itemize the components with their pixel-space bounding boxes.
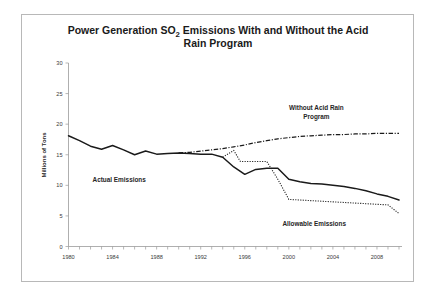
title-pre: Power Generation SO bbox=[68, 24, 176, 36]
x-tick-label: 2000 bbox=[283, 254, 295, 260]
x-axis-ticks: 19801984198819921996200020042008 bbox=[62, 247, 399, 260]
series-line-allowable-emissions bbox=[223, 150, 399, 213]
annotation-actual-emissions: Actual Emissions bbox=[93, 176, 147, 183]
title-line-2: Rain Program bbox=[184, 37, 253, 49]
title-post: Emissions With and Without the Acid bbox=[180, 24, 368, 36]
chart-axes bbox=[69, 63, 403, 247]
y-tick-label: 10 bbox=[56, 182, 62, 188]
chart-series-lines bbox=[69, 133, 400, 213]
series-line-actual-emissions bbox=[69, 136, 400, 200]
y-tick-label: 5 bbox=[59, 213, 62, 219]
annotation-allowable-emissions: Allowable Emissions bbox=[282, 220, 346, 227]
x-tick-label: 1984 bbox=[106, 254, 118, 260]
so2-emissions-line-chart: Power Generation SO2 Emissions With and … bbox=[0, 0, 434, 298]
x-tick-label: 1996 bbox=[239, 254, 251, 260]
annotation-without-acid-rain-line1: Without Acid Rain bbox=[289, 104, 344, 111]
y-tick-label: 20 bbox=[56, 121, 62, 127]
chart-title: Power Generation SO2 Emissions With and … bbox=[68, 24, 369, 49]
y-axis-label: Millions of Tons bbox=[41, 132, 47, 178]
annotation-without-acid-rain-line2: Program bbox=[303, 113, 330, 121]
y-axis-label-text: Millions of Tons bbox=[41, 132, 47, 178]
chart-annotations: Actual Emissions Without Acid Rain Progr… bbox=[93, 104, 347, 227]
x-tick-label: 2008 bbox=[371, 254, 383, 260]
x-tick-label: 2004 bbox=[327, 254, 339, 260]
y-tick-label: 25 bbox=[56, 91, 62, 97]
x-tick-label: 1992 bbox=[194, 254, 206, 260]
chart-figure: Power Generation SO2 Emissions With and … bbox=[0, 0, 434, 298]
y-tick-label: 0 bbox=[59, 244, 62, 250]
x-tick-label: 1988 bbox=[150, 254, 162, 260]
series-line-without-acid-rain-program bbox=[179, 133, 399, 153]
y-axis-ticks: 051015202530 bbox=[56, 60, 68, 250]
y-tick-label: 30 bbox=[56, 60, 62, 66]
y-tick-label: 15 bbox=[56, 152, 62, 158]
x-tick-label: 1980 bbox=[62, 254, 74, 260]
